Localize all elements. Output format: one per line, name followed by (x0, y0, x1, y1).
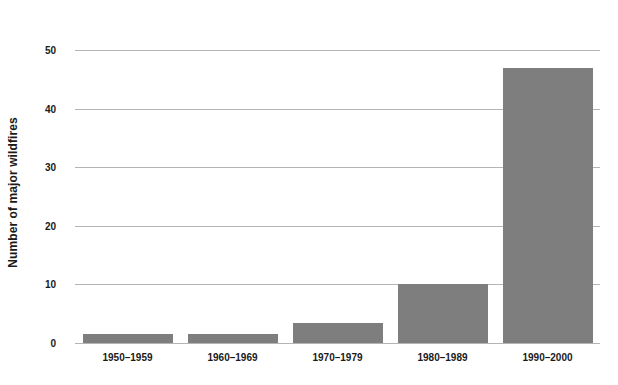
x-axis-tick-label: 1970–1979 (312, 352, 362, 363)
x-axis-tick-label: 1990–2000 (522, 352, 572, 363)
y-axis-tick-label: 10 (0, 279, 56, 290)
bar (398, 284, 488, 343)
x-axis-tick-label: 1960–1969 (207, 352, 257, 363)
bar (188, 334, 278, 343)
x-axis-tick-label: 1950–1959 (102, 352, 152, 363)
y-axis-tick-label: 50 (0, 45, 56, 56)
y-axis-tick-label: 40 (0, 103, 56, 114)
bar (293, 323, 383, 344)
axis-baseline (75, 343, 600, 344)
plot-area (75, 50, 600, 343)
bar (503, 68, 593, 343)
y-axis-tick-label: 30 (0, 162, 56, 173)
bar-series (75, 50, 600, 343)
bar-chart: Number of major wildfires 01020304050 19… (0, 0, 618, 385)
y-axis-tick-label: 20 (0, 220, 56, 231)
y-axis-title: Number of major wildfires (0, 0, 26, 385)
bar (83, 334, 173, 343)
y-axis-tick-label: 0 (0, 338, 56, 349)
x-axis-tick-label: 1980–1989 (417, 352, 467, 363)
